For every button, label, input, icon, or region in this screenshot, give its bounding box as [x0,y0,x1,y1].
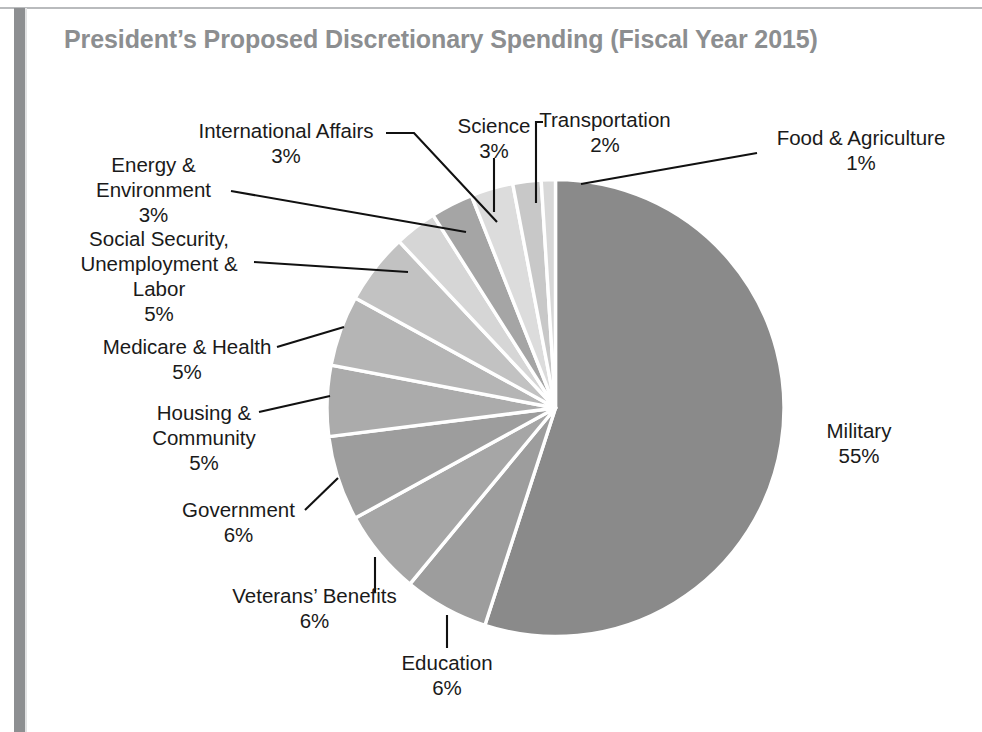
slice-label-energy-environment-name-2: Environment [76,177,231,202]
slice-label-housing-community: Housing & Community 5% [149,400,259,475]
slice-label-housing-community-pct: 5% [149,450,259,475]
slice-label-housing-community-name-1: Housing & [149,400,259,425]
leader-line-energy-environment [231,191,466,232]
slice-label-social-security: Social Security, Unemployment & Labor 5% [64,226,254,326]
slice-label-education: Education 6% [372,650,522,700]
slice-label-social-security-name-3: Labor [64,276,254,301]
slice-label-government-pct: 6% [172,522,305,547]
slice-label-veterans-benefits-pct: 6% [227,608,402,633]
slice-label-food-agriculture-name: Food & Agriculture [756,125,966,150]
slice-label-medicare-health: Medicare & Health 5% [97,334,277,384]
leader-line-food-agriculture [581,153,757,184]
slice-label-international-affairs-name: International Affairs [182,118,390,143]
slice-label-education-pct: 6% [372,675,522,700]
slice-label-social-security-name-1: Social Security, [64,226,254,251]
slice-label-education-name: Education [372,650,522,675]
slice-label-military: Military 55% [803,418,915,468]
slice-label-social-security-pct: 5% [64,301,254,326]
chart-page: President’s Proposed Discretionary Spend… [0,0,982,732]
slice-label-transportation: Transportation 2% [530,107,680,157]
slice-label-military-name: Military [803,418,915,443]
slice-label-veterans-benefits-name: Veterans’ Benefits [227,583,402,608]
slice-label-medicare-health-pct: 5% [97,359,277,384]
slice-label-food-agriculture-pct: 1% [756,150,966,175]
slice-label-government-name: Government [172,497,305,522]
slice-label-medicare-health-name: Medicare & Health [97,334,277,359]
leader-line-medicare-health [277,327,344,347]
slice-label-military-pct: 55% [803,443,915,468]
slice-label-transportation-pct: 2% [530,132,680,157]
slice-label-housing-community-name-2: Community [149,425,259,450]
slice-label-energy-environment-pct: 3% [76,202,231,227]
leader-line-government [305,478,338,510]
slice-label-energy-environment: Energy & Environment 3% [76,152,231,227]
slice-label-transportation-name: Transportation [530,107,680,132]
slice-label-government: Government 6% [172,497,305,547]
pie-slice-group [327,180,784,637]
slice-label-veterans-benefits: Veterans’ Benefits 6% [227,583,402,633]
leader-line-housing-community [259,396,330,412]
slice-label-social-security-name-2: Unemployment & [64,251,254,276]
slice-label-food-agriculture: Food & Agriculture 1% [756,125,966,175]
slice-label-energy-environment-name-1: Energy & [76,152,231,177]
